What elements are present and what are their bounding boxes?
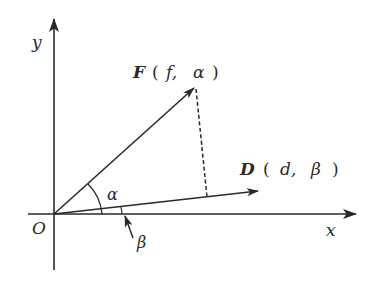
vector-f-open-paren: ( (152, 62, 159, 82)
vector-d-close-paren: ) (332, 159, 339, 179)
x-axis-label: x (326, 220, 336, 240)
beta-label: β (136, 233, 146, 252)
y-axis-label: y (31, 32, 42, 52)
vector-f (54, 88, 194, 214)
vector-f-label: F ( f, α ) (132, 62, 219, 82)
projection-dashed-line (196, 89, 207, 197)
vector-d (54, 191, 258, 214)
vector-diagram: y x O α β F ( f, α ) D ( d, β ) (0, 0, 379, 284)
alpha-label: α (107, 185, 118, 204)
vector-d-name: D (239, 159, 255, 179)
vector-d-label: D ( d, β ) (239, 159, 339, 179)
vector-f-magnitude: f, (164, 62, 177, 82)
vector-d-angle: β (310, 159, 321, 179)
vector-d-open-paren: ( (263, 159, 270, 179)
origin-label: O (32, 218, 46, 238)
vector-f-close-paren: ) (212, 62, 219, 82)
vector-f-angle: α (193, 62, 205, 82)
vector-d-magnitude: d, (280, 159, 296, 179)
beta-pointer-arrow (125, 216, 133, 238)
vector-f-name: F (132, 62, 147, 82)
beta-arc (121, 207, 122, 214)
